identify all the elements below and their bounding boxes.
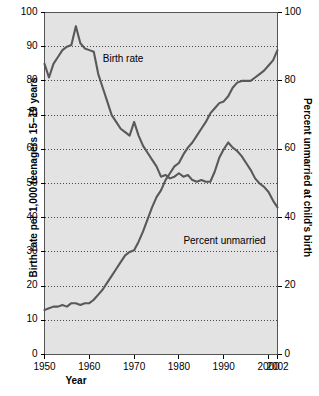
series-annotation-1: Birth rate [103, 53, 144, 64]
y-tick-label-right: 0 [285, 348, 311, 359]
x-tick-label: 1990 [204, 361, 244, 372]
y-tick-label-left: 20 [12, 279, 38, 290]
y-tick-label-right: 80 [285, 74, 311, 85]
x-tick-label: 1970 [114, 361, 154, 372]
x-tick-label: 1980 [159, 361, 199, 372]
y-tick-label-left: 40 [12, 211, 38, 222]
series-annotation-2: Percent unmarried [183, 235, 265, 246]
y-tick-label-right: 100 [285, 6, 311, 17]
chart-container: Birth rate per 1,000 teenagers 15–19 yea… [0, 0, 319, 396]
x-axis-label: Year [36, 375, 116, 386]
y-tick-label-left: 70 [12, 108, 38, 119]
y-tick-label-left: 30 [12, 245, 38, 256]
plot-area [0, 0, 319, 396]
y-tick-label-left: 50 [12, 177, 38, 188]
x-tick-label: 1950 [25, 361, 65, 372]
x-tick-label: 1960 [69, 361, 109, 372]
y-tick-label-left: 100 [12, 6, 38, 17]
y-tick-label-right: 40 [285, 211, 311, 222]
x-tick-label: 2002 [258, 361, 298, 372]
y-tick-label-left: 80 [12, 74, 38, 85]
y-tick-label-right: 20 [285, 279, 311, 290]
y-tick-label-right: 60 [285, 142, 311, 153]
y-tick-label-left: 90 [12, 40, 38, 51]
y-tick-label-left: 0 [12, 348, 38, 359]
y-tick-label-left: 10 [12, 313, 38, 324]
y-tick-label-left: 60 [12, 142, 38, 153]
